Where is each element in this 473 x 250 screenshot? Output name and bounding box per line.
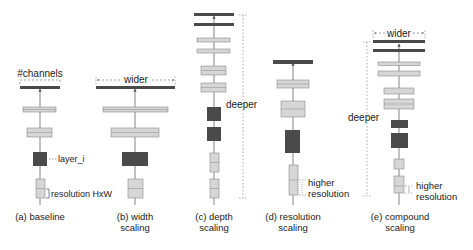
layer-block xyxy=(373,40,425,43)
deeper-label: deeper xyxy=(226,99,258,110)
caption-baseline: (a) baseline xyxy=(15,211,65,222)
panel-width-scaling: wider (b) width scaling xyxy=(96,74,175,233)
layer-block xyxy=(378,71,420,76)
layer-block xyxy=(273,60,313,64)
layer-block xyxy=(378,62,420,66)
resolution-hxw-label: resolution HxW xyxy=(51,189,113,199)
wider-label: wider xyxy=(123,74,149,85)
resolution-brace xyxy=(46,189,49,198)
caption-width-line2: scaling xyxy=(120,222,150,233)
layer-block xyxy=(391,133,408,148)
panel-compound-scaling: wider deeper higher resolution (e) compo… xyxy=(348,28,457,233)
resolution-label: resolution xyxy=(416,191,457,202)
caption-compound-line1: (e) compound xyxy=(371,211,430,222)
caption-resolution-line2: scaling xyxy=(278,222,308,233)
caption-depth-line2: scaling xyxy=(199,222,229,233)
layer-block xyxy=(391,120,408,128)
caption-compound-line2: scaling xyxy=(385,222,415,233)
layer-block xyxy=(33,152,47,166)
wider-label: wider xyxy=(386,28,412,39)
layer-block xyxy=(285,130,300,153)
layer-block xyxy=(194,13,234,16)
layer-block xyxy=(373,49,425,52)
layer-block xyxy=(197,38,230,42)
diagram-canvas: #channels layer_i resolution HxW (a) bas… xyxy=(0,0,473,250)
layer-block xyxy=(20,86,60,89)
caption-width-line1: (b) width xyxy=(117,211,153,222)
caption-depth-line1: (c) depth xyxy=(195,211,233,222)
panel-baseline: #channels layer_i resolution HxW (a) bas… xyxy=(15,68,112,222)
layer-block xyxy=(384,88,414,94)
layer-block xyxy=(122,152,148,166)
layer-block xyxy=(197,49,230,53)
higher-label: higher xyxy=(416,180,442,191)
layer-i-label: layer_i xyxy=(58,154,85,164)
channels-bracket xyxy=(20,80,60,84)
caption-resolution-line1: (d) resolution xyxy=(265,211,320,222)
higher-label: higher xyxy=(308,177,334,188)
layer-block xyxy=(394,176,404,193)
layer-block xyxy=(207,107,221,121)
layer-block xyxy=(394,159,404,169)
layer-block xyxy=(96,86,175,89)
layer-block xyxy=(207,127,221,141)
channels-label: #channels xyxy=(17,68,63,79)
resolution-label: resolution xyxy=(308,188,349,199)
model-scaling-diagram: #channels layer_i resolution HxW (a) bas… xyxy=(0,0,473,250)
panel-resolution-scaling: higher resolution (d) resolution scaling xyxy=(265,60,349,233)
layer-block xyxy=(194,23,234,26)
panel-depth-scaling: deeper (c) depth scaling xyxy=(194,13,258,233)
deeper-label: deeper xyxy=(348,112,380,123)
